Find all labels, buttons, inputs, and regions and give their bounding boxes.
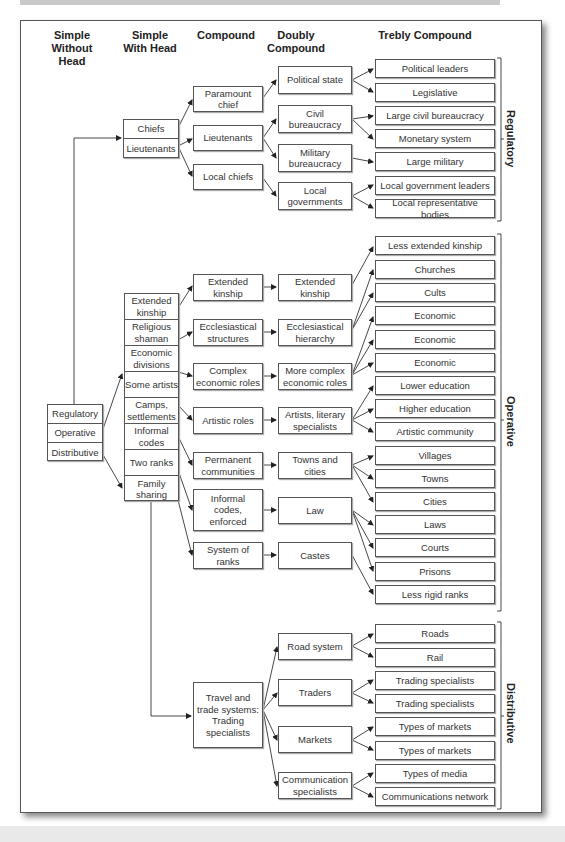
op-simple-economic-divisions[interactable]: Economic divisions [125,346,178,372]
op-simple-family-sharing[interactable]: Family sharing [125,476,178,502]
op-trebly-cities[interactable]: Cities [375,492,495,511]
dist-compound-travel-and-trade[interactable]: Travel and trade systems: Trading specia… [193,682,263,748]
op-doubly-law[interactable]: Law [278,497,352,524]
op-compound-complex-economic-roles[interactable]: Complex economic roles [193,363,263,390]
op-doubly-ecclesiastical-hierarchy[interactable]: Ecclesiastical hierarchy [278,319,352,346]
root-stack: Regulatory Operative Distributive [47,404,103,461]
reg-doubly-civil-bureaucracy[interactable]: Civil bureaucracy [278,105,352,133]
op-doubly-castes[interactable]: Castes [278,542,352,569]
reg-compound-lieutenants[interactable]: Lieutenants [193,125,263,151]
op-trebly-artistic-community[interactable]: Artistic community [375,422,495,441]
root-operative[interactable]: Operative [48,424,102,443]
regulatory-simple-stack: Chiefs Lieutenants [123,119,179,158]
dist-trebly-trading-specialists-1[interactable]: Trading specialists [375,671,495,690]
reg-compound-local-chiefs[interactable]: Local chiefs [193,164,263,190]
op-trebly-churches[interactable]: Churches [375,260,495,279]
reg-simple-lieutenants[interactable]: Lieutenants [124,139,178,158]
op-simple-extended-kinship[interactable]: Extended kinship [125,294,178,320]
reg-compound-paramount-chief[interactable]: Paramount chief [193,86,263,112]
op-trebly-towns[interactable]: Towns [375,469,495,488]
label-operative: Operative [505,396,517,447]
dist-trebly-types-of-media[interactable]: Types of media [375,764,495,783]
op-simple-two-ranks[interactable]: Two ranks [125,450,178,476]
label-regulatory: Regulatory [505,110,517,167]
operative-simple-stack: Extended kinship Religious shaman Econom… [124,293,179,501]
op-trebly-economic-3[interactable]: Economic [375,353,495,372]
dist-trebly-trading-specialists-2[interactable]: Trading specialists [375,694,495,713]
reg-doubly-military-bureaucracy[interactable]: Military bureaucracy [278,144,352,172]
op-trebly-lower-education[interactable]: Lower education [375,376,495,395]
op-trebly-laws[interactable]: Laws [375,515,495,534]
dist-trebly-roads[interactable]: Roads [375,624,495,643]
op-trebly-economic-1[interactable]: Economic [375,306,495,325]
bottom-band [0,826,565,842]
op-trebly-economic-2[interactable]: Economic [375,330,495,349]
reg-trebly-local-government-leaders[interactable]: Local government leaders [375,176,495,195]
op-compound-permanent-communities[interactable]: Permanent communities [193,452,263,479]
op-simple-informal-codes[interactable]: Informal codes [125,424,178,450]
reg-trebly-monetary-system[interactable]: Monetary system [375,129,495,148]
reg-trebly-local-representative-bodies[interactable]: Local representative bodies [375,199,495,218]
op-doubly-extended-kinship[interactable]: Extended kinship [278,274,352,301]
op-compound-artistic-roles[interactable]: Artistic roles [193,407,263,434]
op-trebly-less-extended-kinship[interactable]: Less extended kinship [375,236,495,255]
label-distributive: Distributive [505,683,517,744]
reg-trebly-large-civil-bureaucracy[interactable]: Large civil bureaucracy [375,106,495,125]
reg-trebly-large-military[interactable]: Large military [375,152,495,171]
root-distributive[interactable]: Distributive [48,443,102,462]
dist-doubly-road-system[interactable]: Road system [278,633,352,660]
op-compound-informal-codes-enforced[interactable]: Informal codes, enforced [193,489,263,531]
op-doubly-more-complex-economic-roles[interactable]: More complex economic roles [278,363,352,390]
dist-doubly-communication-specialists[interactable]: Communication specialists [278,772,352,799]
op-compound-system-of-ranks[interactable]: System of ranks [193,542,263,569]
dist-trebly-types-of-markets-1[interactable]: Types of markets [375,717,495,736]
op-compound-extended-kinship[interactable]: Extended kinship [193,274,263,301]
reg-trebly-legislative[interactable]: Legislative [375,83,495,102]
op-doubly-towns-and-cities[interactable]: Towns and cities [278,452,352,479]
dist-trebly-types-of-markets-2[interactable]: Types of markets [375,741,495,760]
op-trebly-higher-education[interactable]: Higher education [375,399,495,418]
op-trebly-cults[interactable]: Cults [375,283,495,302]
reg-trebly-political-leaders[interactable]: Political leaders [375,59,495,78]
op-trebly-villages[interactable]: Villages [375,446,495,465]
op-trebly-prisons[interactable]: Prisons [375,562,495,581]
reg-doubly-political-state[interactable]: Political state [278,66,352,94]
op-simple-some-artists[interactable]: Some artists [125,372,178,398]
root-regulatory[interactable]: Regulatory [48,405,102,424]
dist-trebly-communications-network[interactable]: Communications network [375,787,495,806]
dist-trebly-rail[interactable]: Rail [375,648,495,667]
op-trebly-less-rigid-ranks[interactable]: Less rigid ranks [375,585,495,604]
dist-doubly-markets[interactable]: Markets [278,726,352,753]
reg-simple-chiefs[interactable]: Chiefs [124,120,178,139]
op-trebly-courts[interactable]: Courts [375,538,495,557]
op-simple-camps-settlements[interactable]: Camps, settlements [125,398,178,424]
reg-doubly-local-governments[interactable]: Local governments [278,182,352,210]
op-doubly-artists-literary-specialists[interactable]: Artists, literary specialists [278,407,352,434]
op-simple-religious-shaman[interactable]: Religious shaman [125,320,178,346]
dist-doubly-traders[interactable]: Traders [278,679,352,706]
op-compound-ecclesiastical-structures[interactable]: Ecclesiastical structures [193,319,263,346]
